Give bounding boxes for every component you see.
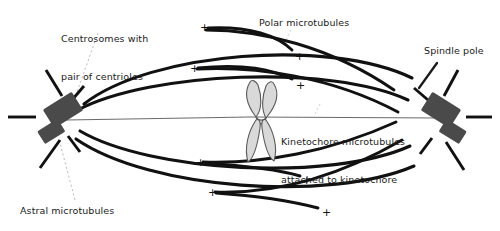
astral-microtubule-right-3 xyxy=(446,142,464,170)
plus-upper-right-2: + xyxy=(296,80,305,91)
label-polar-microtubules: Polar microtubules xyxy=(259,17,349,30)
label-astral-microtubules: Astral microtubules xyxy=(20,205,114,218)
chromosome xyxy=(246,81,276,162)
chromosome-arm-upper-right xyxy=(263,82,277,118)
label-kinetochore-microtubules: Kinetochore microtubules attached to kin… xyxy=(281,111,405,211)
chromosome-arm-lower-right xyxy=(262,119,276,161)
astral-microtubule-left-3 xyxy=(40,140,60,168)
label-centrosomes-line2: pair of centrioles xyxy=(61,71,148,84)
chromosome-arm-upper-left xyxy=(247,81,261,117)
leader-line-spindle-pole xyxy=(419,63,437,88)
plus-upper-left-2: + xyxy=(190,63,199,74)
label-centrosomes-line1: Centrosomes with xyxy=(61,33,148,46)
astral-microtubule-left-4 xyxy=(68,136,80,152)
astral-microtubule-right-4 xyxy=(420,138,432,154)
label-kinetochore-line2: attached to kinetochore xyxy=(281,174,405,187)
mitotic-spindle-diagram: Centrosomes with pair of centrioles Pola… xyxy=(0,0,500,231)
astral-microtubule-right-1 xyxy=(444,70,458,96)
plus-lower-left-2: + xyxy=(208,187,217,198)
plus-upper-right-1: + xyxy=(295,51,304,62)
label-centrosomes: Centrosomes with pair of centrioles xyxy=(61,8,148,108)
astral-microtubule-left-1 xyxy=(46,70,62,96)
plus-lower-left-1: + xyxy=(196,157,205,168)
astral-microtubule-right-5 xyxy=(414,88,428,100)
label-spindle-pole: Spindle pole xyxy=(424,45,484,58)
plus-lower-right-2: + xyxy=(322,207,331,218)
plus-upper-left-1: + xyxy=(200,22,209,33)
label-kinetochore-line1: Kinetochore microtubules xyxy=(281,136,405,149)
plus-lower-right-1: + xyxy=(302,175,311,186)
leader-line-astral xyxy=(60,143,75,200)
chromosome-arm-lower-left xyxy=(246,119,260,162)
